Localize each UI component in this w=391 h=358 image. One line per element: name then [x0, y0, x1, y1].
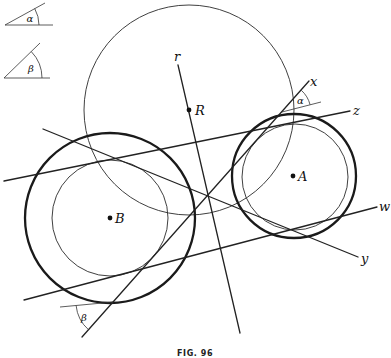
point-A-label: A	[297, 169, 307, 184]
point-B-label: B	[114, 211, 125, 226]
figure-caption: FIG. 96	[177, 349, 213, 358]
point-A	[291, 174, 296, 179]
beta-mark-label: β	[80, 312, 87, 323]
point-R-label: R	[194, 103, 205, 118]
given-angle-alpha: α	[5, 3, 53, 25]
given-angle-beta: β	[4, 43, 50, 78]
point-B	[108, 216, 113, 221]
line-r	[178, 65, 240, 333]
beta-reference-line	[60, 302, 113, 307]
line-r-label: r	[174, 49, 181, 64]
line-w-label: w	[379, 199, 390, 214]
angle-mark-beta: β	[60, 302, 113, 330]
line-x	[82, 81, 309, 337]
line-y	[43, 129, 358, 257]
alpha-arc	[35, 9, 39, 26]
geometry-diagram: α β α β R A B r x z w y FIG. 96	[0, 0, 391, 358]
alpha-mark-label: α	[297, 95, 304, 106]
beta-label: β	[27, 63, 34, 74]
angle-mark-alpha: α	[282, 90, 321, 112]
line-z-label: z	[352, 103, 360, 118]
figure-96: α β α β R A B r x z w y FIG. 96	[0, 0, 391, 358]
line-y-label: y	[360, 251, 369, 266]
line-x-label: x	[310, 74, 318, 89]
beta-side-ray	[4, 43, 40, 78]
point-R	[187, 108, 192, 113]
alpha-label: α	[27, 13, 34, 24]
line-w	[24, 207, 377, 300]
